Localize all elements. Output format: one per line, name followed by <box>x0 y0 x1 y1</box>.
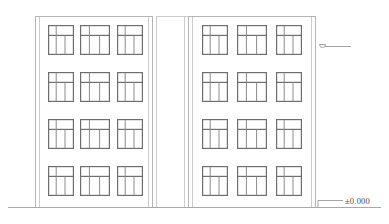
window[interactable] <box>118 167 143 196</box>
elevation-sheet: ±0.000 <box>0 0 389 224</box>
window[interactable] <box>238 26 267 55</box>
window[interactable] <box>277 26 302 55</box>
window[interactable] <box>118 73 143 102</box>
window[interactable] <box>81 167 110 196</box>
right-floor-2 <box>203 120 302 149</box>
level-marker[interactable] <box>320 45 352 48</box>
window[interactable] <box>203 73 228 102</box>
window[interactable] <box>49 120 74 149</box>
left-floor-2 <box>49 120 143 149</box>
elevation-drawing <box>0 0 389 224</box>
window[interactable] <box>49 26 74 55</box>
window[interactable] <box>277 120 302 149</box>
left-floor-3 <box>49 73 143 102</box>
right-floor-4 <box>203 26 302 55</box>
window[interactable] <box>49 73 74 102</box>
window[interactable] <box>118 120 143 149</box>
window[interactable] <box>81 26 110 55</box>
left-floor-1 <box>49 167 143 196</box>
window[interactable] <box>81 73 110 102</box>
right-block <box>189 16 316 207</box>
window[interactable] <box>277 73 302 102</box>
left-floor-4 <box>49 26 143 55</box>
central-bay <box>157 16 189 207</box>
datum-leader <box>318 201 343 208</box>
window[interactable] <box>49 167 74 196</box>
right-floor-3 <box>203 73 302 102</box>
window[interactable] <box>118 26 143 55</box>
window[interactable] <box>238 73 267 102</box>
right-floor-1 <box>203 167 302 196</box>
window[interactable] <box>238 120 267 149</box>
window[interactable] <box>203 120 228 149</box>
left-block <box>36 16 153 207</box>
datum-label: ±0.000 <box>345 196 370 206</box>
window[interactable] <box>203 167 228 196</box>
window[interactable] <box>81 120 110 149</box>
window[interactable] <box>238 167 267 196</box>
window[interactable] <box>277 167 302 196</box>
window[interactable] <box>203 26 228 55</box>
